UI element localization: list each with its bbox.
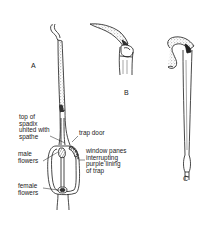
label-window-panes: window panes interrupting purple lining … (86, 148, 127, 174)
label-female-flowers: female flowers (18, 183, 38, 196)
label-top-of-spadix: top of spadix united with spathe (19, 114, 50, 140)
figure-label-c: C (183, 175, 188, 182)
figure-b-drawing (90, 24, 133, 75)
label-male-flowers: male flowers (18, 151, 38, 164)
figure-c-drawing (168, 37, 194, 180)
figure-label-b: B (124, 89, 129, 96)
figure-a-drawing (48, 24, 80, 210)
label-trap-door: trap door (79, 130, 105, 137)
figure-label-a: A (31, 62, 36, 69)
